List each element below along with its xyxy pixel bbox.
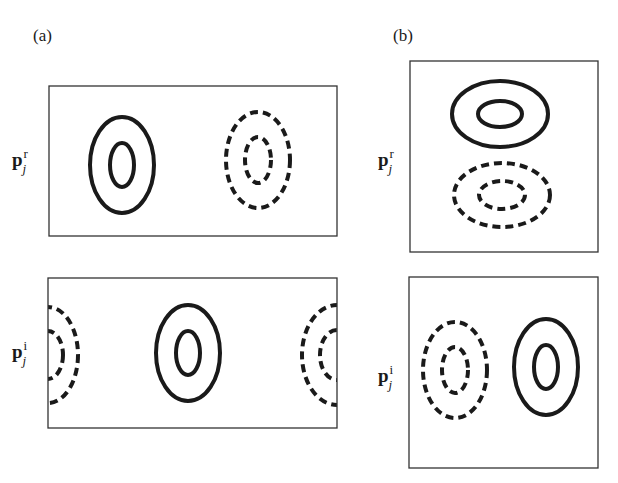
contour-figure — [0, 0, 618, 483]
dashed-contour — [245, 137, 271, 183]
plot-frame — [410, 61, 598, 252]
dashed-contour — [226, 112, 290, 208]
plot-frame — [48, 278, 337, 428]
solid-contour — [110, 143, 134, 187]
plot-frame — [409, 277, 598, 468]
plot-frame — [49, 86, 337, 236]
panel-b-row-real-plot — [410, 61, 598, 252]
dashed-contour — [442, 347, 468, 393]
dashed-contour — [423, 322, 487, 418]
solid-contour — [90, 117, 154, 213]
dashed-contour — [454, 163, 550, 227]
figure-content — [18, 61, 598, 468]
solid-contour — [478, 101, 522, 127]
solid-contour — [452, 81, 548, 147]
solid-contour — [514, 319, 578, 415]
panel-b-row-imag-plot — [409, 277, 598, 468]
panel-a-row-real-plot — [49, 86, 337, 236]
panel-a-row-imag-plot — [18, 278, 372, 428]
solid-contour — [156, 305, 220, 401]
solid-contour — [176, 331, 200, 375]
dashed-contour — [479, 181, 525, 209]
solid-contour — [534, 345, 558, 389]
